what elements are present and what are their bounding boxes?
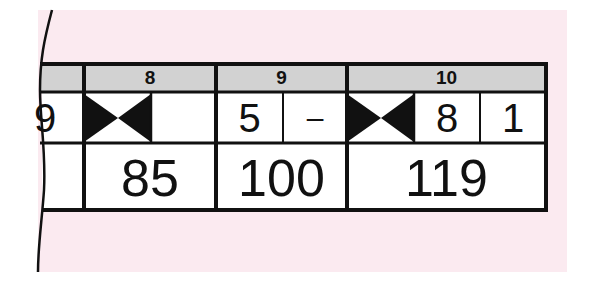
grid-lines: [0, 0, 589, 290]
bowling-scoresheet: 8 9 10 9 5 – 8 1 85 100 119: [0, 0, 589, 290]
strike-icon: [347, 94, 414, 142]
strike-icon: [84, 94, 151, 142]
